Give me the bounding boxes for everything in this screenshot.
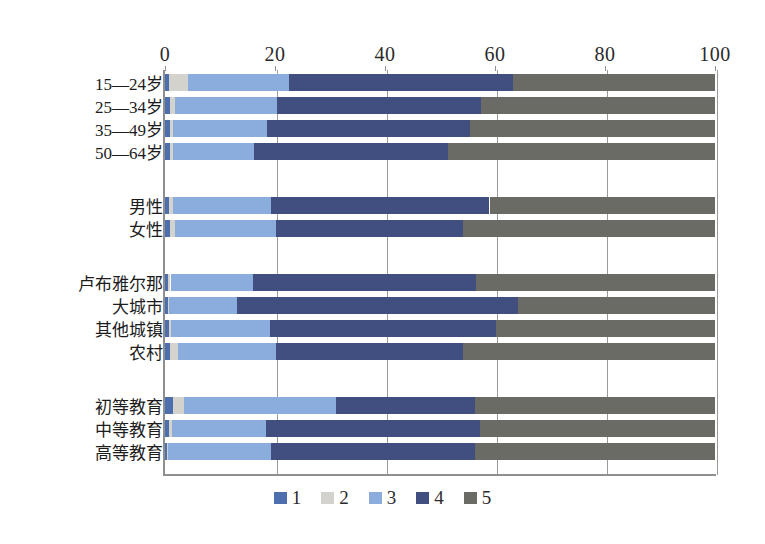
bar-segment-5	[476, 274, 715, 291]
bar-segment-4	[336, 397, 475, 414]
legend-item[interactable]: 5	[464, 488, 492, 507]
stacked-bar	[165, 343, 715, 360]
legend-label: 5	[482, 488, 492, 507]
row-label: 农村	[129, 339, 163, 364]
stacked-bar	[165, 120, 715, 137]
legend-swatch-icon	[464, 492, 477, 504]
bar-segment-3	[175, 220, 275, 237]
x-axis-tick-label: 20	[265, 43, 286, 66]
bar-segment-3	[171, 274, 254, 291]
bar-row: 中等教育	[0, 420, 765, 437]
row-label: 15—24岁	[95, 70, 163, 95]
row-label: 卢布雅尔那	[78, 270, 163, 295]
legend-label: 3	[387, 488, 397, 507]
bar-row: 15—24岁	[0, 74, 765, 91]
x-axis-tick-mark	[715, 66, 716, 71]
row-label: 高等教育	[95, 439, 163, 464]
bar-segment-3	[184, 397, 335, 414]
bar-segment-5	[496, 320, 715, 337]
bar-segment-5	[475, 397, 715, 414]
row-label: 25—34岁	[95, 93, 163, 118]
row-label: 50—64岁	[95, 139, 163, 164]
x-axis-tick-label: 40	[375, 43, 396, 66]
stacked-bar	[165, 397, 715, 414]
x-axis-tick-label: 60	[485, 43, 506, 66]
bar-segment-4	[270, 320, 496, 337]
bar-segment-3	[171, 320, 270, 337]
bar-segment-5	[470, 120, 715, 137]
stacked-bar	[165, 297, 715, 314]
bar-segment-4	[276, 343, 463, 360]
x-axis-line	[163, 474, 716, 476]
bar-segment-5	[518, 297, 715, 314]
bar-segment-4	[276, 220, 463, 237]
x-axis-tick-mark	[605, 66, 606, 71]
bar-segment-4	[237, 297, 518, 314]
stacked-bar	[165, 420, 715, 437]
bar-segment-5	[513, 74, 715, 91]
bar-segment-4	[277, 97, 481, 114]
legend-swatch-icon	[369, 492, 382, 504]
bar-segment-4	[267, 120, 471, 137]
legend-item[interactable]: 1	[274, 488, 302, 507]
row-label: 大城市	[112, 293, 163, 318]
bar-segment-4	[253, 274, 476, 291]
bar-segment-2	[173, 397, 184, 414]
bar-segment-3	[173, 120, 267, 137]
bar-segment-3	[173, 197, 271, 214]
bar-segment-3	[172, 420, 266, 437]
stacked-bar	[165, 143, 715, 160]
legend-item[interactable]: 3	[369, 488, 397, 507]
legend-item[interactable]: 4	[416, 488, 444, 507]
chart-page: 020406080100 15—24岁25—34岁35—49岁50—64岁男性女…	[0, 0, 765, 544]
bar-row: 卢布雅尔那	[0, 274, 765, 291]
row-label: 女性	[129, 216, 163, 241]
chart-legend: 12345	[0, 488, 765, 507]
x-axis-tick-label: 100	[699, 43, 731, 66]
x-axis-tick-mark	[275, 66, 276, 71]
bar-segment-3	[178, 343, 276, 360]
stacked-bar	[165, 274, 715, 291]
legend-item[interactable]: 2	[321, 488, 349, 507]
stacked-bar	[165, 197, 715, 214]
legend-label: 1	[292, 488, 302, 507]
legend-swatch-icon	[321, 492, 334, 504]
bar-row: 25—34岁	[0, 97, 765, 114]
stacked-bar	[165, 74, 715, 91]
legend-swatch-icon	[274, 492, 287, 504]
x-axis-tick-label: 0	[160, 43, 171, 66]
x-axis-tick-mark	[495, 66, 496, 71]
bar-segment-5	[448, 143, 715, 160]
bar-row: 农村	[0, 343, 765, 360]
bar-row: 男性	[0, 197, 765, 214]
bar-segment-4	[271, 443, 475, 460]
legend-swatch-icon	[416, 492, 429, 504]
x-axis-tick-mark	[165, 66, 166, 71]
bar-segment-5	[475, 443, 715, 460]
row-label: 初等教育	[95, 393, 163, 418]
stacked-bar	[165, 97, 715, 114]
bar-segment-3	[188, 74, 289, 91]
stacked-bar	[165, 443, 715, 460]
x-axis-tick-mark	[385, 66, 386, 71]
bar-row: 其他城镇	[0, 320, 765, 337]
bar-row: 女性	[0, 220, 765, 237]
row-label: 中等教育	[95, 416, 163, 441]
legend-label: 4	[434, 488, 444, 507]
bar-segment-1	[165, 397, 173, 414]
x-axis-tick-label: 80	[595, 43, 616, 66]
bar-segment-4	[271, 197, 490, 214]
bar-row: 35—49岁	[0, 120, 765, 137]
stacked-bar	[165, 320, 715, 337]
row-label: 35—49岁	[95, 116, 163, 141]
bar-segment-4	[266, 420, 481, 437]
bar-segment-5	[463, 220, 715, 237]
row-label: 男性	[129, 193, 163, 218]
bar-segment-2	[170, 343, 178, 360]
bar-row: 50—64岁	[0, 143, 765, 160]
stacked-bar	[165, 220, 715, 237]
bar-segment-3	[175, 97, 277, 114]
bar-row: 大城市	[0, 297, 765, 314]
bar-segment-3	[168, 443, 270, 460]
bar-segment-5	[490, 197, 716, 214]
